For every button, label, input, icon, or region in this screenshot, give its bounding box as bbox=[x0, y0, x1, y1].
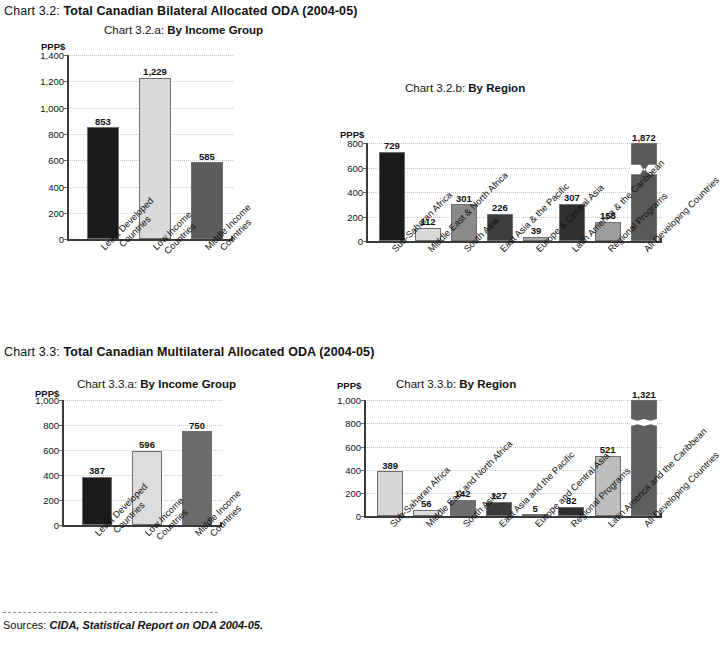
bar: 853 bbox=[87, 127, 119, 239]
source-text: CIDA, Statistical Report on ODA 2004-05. bbox=[49, 619, 263, 631]
chart-3-2-a-number: Chart 3.2.a: bbox=[104, 24, 164, 36]
bar-value-label: 5 bbox=[532, 503, 537, 514]
bar-value-label: 1,229 bbox=[143, 66, 167, 77]
gridline bbox=[364, 400, 662, 401]
chart-3-2-main-title: Chart 3.2: Total Canadian Bilateral Allo… bbox=[4, 4, 357, 18]
y-axis-tick-label: 800 bbox=[43, 420, 59, 431]
gridline bbox=[366, 168, 662, 169]
y-axis-tick-label: 200 bbox=[347, 211, 363, 222]
gridline bbox=[366, 217, 662, 218]
chart-3-3-b-subtitle: Chart 3.3.b: By Region bbox=[396, 378, 516, 390]
bar-value-label: 729 bbox=[384, 140, 400, 151]
y-axis-tick-label: 800 bbox=[48, 129, 64, 140]
y-axis-tick-label: 800 bbox=[347, 138, 363, 149]
y-axis-tick-label: 400 bbox=[345, 464, 361, 475]
y-axis-line bbox=[364, 400, 366, 518]
source-divider bbox=[3, 612, 218, 613]
chart-3-3-a-plot: 02004006008001,000387596750Least Develop… bbox=[62, 400, 222, 527]
y-axis-tick-label: 600 bbox=[43, 445, 59, 456]
y-axis-tick-label: 200 bbox=[43, 495, 59, 506]
y-axis-tick-label: 800 bbox=[345, 418, 361, 429]
chart-3-3-title-text: Total Canadian Multilateral Allocated OD… bbox=[63, 345, 374, 359]
bar-value-label: 853 bbox=[95, 116, 111, 127]
chart-3-3-number: Chart 3.3: bbox=[4, 345, 60, 359]
bar-value-label: 750 bbox=[189, 420, 205, 431]
bar-value-label: 389 bbox=[382, 460, 398, 471]
bar-value-label: 585 bbox=[199, 151, 215, 162]
y-axis-line bbox=[62, 400, 64, 527]
bar-value-label: 226 bbox=[492, 202, 508, 213]
chart-3-2-b-number: Chart 3.2.b: bbox=[405, 82, 465, 94]
y-axis-tick-label: 1,200 bbox=[40, 76, 64, 87]
chart-3-3-a-number: Chart 3.3.a: bbox=[77, 378, 137, 390]
source-label: Sources: bbox=[3, 619, 46, 631]
y-axis-tick-label: 1,400 bbox=[40, 50, 64, 61]
y-axis-tick-label: 400 bbox=[43, 470, 59, 481]
chart-3-2-b-plot: 0200400600800729112301226393071581,872Su… bbox=[366, 143, 662, 243]
y-axis-tick-label: 200 bbox=[345, 488, 361, 499]
bar: 729 bbox=[379, 152, 406, 242]
y-axis-tick-label: 600 bbox=[345, 441, 361, 452]
chart-3-2-a-subtitle: Chart 3.2.a: By Income Group bbox=[104, 24, 263, 36]
chart-3-3-b-plot: 02004006008001,000389561421275825211,321… bbox=[364, 400, 662, 518]
bar-value-label: 596 bbox=[139, 439, 155, 450]
bar-value-label: 1,872 bbox=[632, 132, 656, 143]
axis-break-marker bbox=[631, 413, 657, 422]
y-axis-line bbox=[366, 143, 368, 243]
y-axis-tick-label: 600 bbox=[48, 155, 64, 166]
gridline bbox=[364, 423, 662, 424]
gridline bbox=[67, 55, 233, 56]
chart-3-2-number: Chart 3.2: bbox=[4, 4, 60, 18]
chart-3-3-b-ylabel: PPP$ bbox=[337, 380, 361, 391]
y-axis-line bbox=[67, 55, 69, 241]
chart-3-3-b-title: By Region bbox=[459, 378, 516, 390]
y-axis-tick-label: 1,000 bbox=[35, 395, 59, 406]
bar-value-label: 1,321 bbox=[632, 389, 656, 400]
gridline bbox=[366, 143, 662, 144]
bar-value-label: 387 bbox=[89, 465, 105, 476]
source-note: Sources: CIDA, Statistical Report on ODA… bbox=[3, 619, 263, 631]
chart-3-2-b-title: By Region bbox=[468, 82, 525, 94]
y-axis-tick-label: 200 bbox=[48, 208, 64, 219]
y-axis-tick-label: 400 bbox=[48, 181, 64, 192]
chart-3-3-a-title: By Income Group bbox=[140, 378, 236, 390]
chart-3-3-b-number: Chart 3.3.b: bbox=[396, 378, 456, 390]
chart-3-2-b-subtitle: Chart 3.2.b: By Region bbox=[405, 82, 525, 94]
chart-3-2-a-title: By Income Group bbox=[167, 24, 263, 36]
gridline bbox=[366, 192, 662, 193]
y-axis-tick-label: 1,000 bbox=[337, 395, 361, 406]
chart-3-3-main-title: Chart 3.3: Total Canadian Multilateral A… bbox=[4, 345, 374, 359]
y-axis-tick-label: 600 bbox=[347, 162, 363, 173]
chart-3-3-a-subtitle: Chart 3.3.a: By Income Group bbox=[77, 378, 236, 390]
gridline bbox=[62, 400, 222, 401]
chart-3-2-title-text: Total Canadian Bilateral Allocated ODA (… bbox=[63, 4, 357, 18]
chart-3-2-a-plot: 02004006008001,0001,2001,4008531,229585L… bbox=[67, 55, 233, 241]
y-axis-tick-label: 400 bbox=[347, 187, 363, 198]
y-axis-tick-label: 1,000 bbox=[40, 102, 64, 113]
